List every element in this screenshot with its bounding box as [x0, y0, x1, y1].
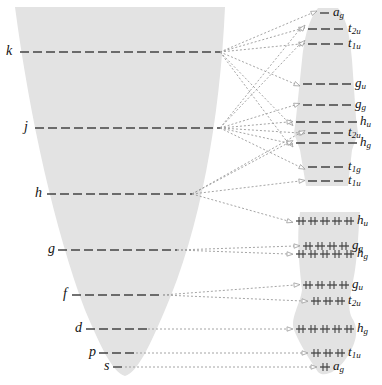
connector-k-u_t1u: [220, 44, 300, 52]
state-label-u_hu: hu: [360, 114, 371, 129]
connector-f-l_gu: [163, 285, 295, 295]
state-label-l_ag: ag: [333, 359, 344, 374]
state-label-l_hu: hu: [357, 213, 368, 228]
connector-g-l_gg: [177, 246, 295, 250]
state-subscript: 2u: [352, 26, 361, 36]
state-subscript: 2u: [352, 298, 361, 308]
state-label-l_gu: gu: [352, 277, 363, 292]
shell-label-s: s: [104, 359, 109, 373]
state-subscript: g: [340, 10, 345, 20]
arrowhead-icon: [287, 252, 293, 256]
shell-label-j: j: [24, 120, 28, 134]
arrowhead-icon: [287, 219, 293, 223]
connector-k-u_gu: [220, 52, 295, 84]
connector-j-u_hg: [220, 128, 288, 143]
connector-h-l_hu: [192, 194, 288, 221]
state-subscript: u: [367, 119, 372, 129]
connector-k-u_hg: [220, 52, 288, 143]
state-subscript: u: [364, 218, 369, 228]
state-subscript: 1u: [352, 178, 361, 188]
state-subscript: g: [367, 140, 372, 150]
state-label-u_gu: gu: [355, 76, 366, 91]
state-label-u_ag: ag: [333, 5, 344, 20]
state-label-l_hg_b: hg: [357, 321, 368, 336]
state-subscript: g: [364, 251, 369, 261]
connector-k-u_hu: [220, 52, 288, 122]
shell-label-d: d: [75, 321, 82, 335]
shell-label-f: f: [63, 287, 67, 301]
state-label-u_gg: gg: [355, 97, 366, 112]
state-subscript: u: [359, 282, 364, 292]
shell-label-h: h: [35, 186, 42, 200]
shell-label-k: k: [6, 44, 12, 58]
state-label-u_t2u_b: t2u: [348, 125, 361, 140]
diagram-canvas: [0, 0, 382, 385]
shell-label-g: g: [48, 242, 55, 256]
arrowhead-icon: [287, 327, 293, 331]
state-label-l_hg: hg: [357, 246, 368, 261]
connector-j-u_t2u: [220, 29, 300, 128]
connector-j-u_t1g: [220, 128, 300, 167]
connector-f-l_t2u: [163, 295, 303, 301]
state-subscript: 1u: [352, 41, 361, 51]
state-label-l_t2u: t2u: [348, 293, 361, 308]
state-label-u_t1u_b: t1u: [348, 173, 361, 188]
connector-j-u_hu: [220, 122, 288, 128]
shell-label-p: p: [89, 345, 96, 359]
state-label-l_t1u: t1u: [348, 345, 361, 360]
connector-g-l_hg: [177, 250, 288, 254]
state-subscript: g: [364, 326, 369, 336]
arrowhead-icon: [294, 82, 300, 86]
state-label-u_t2u: t2u: [348, 21, 361, 36]
arrowhead-icon: [299, 179, 305, 183]
state-label-u_t1u: t1u: [348, 36, 361, 51]
state-subscript: g: [362, 102, 367, 112]
left-funnel-shape: [15, 7, 225, 376]
state-subscript: g: [340, 364, 345, 374]
state-subscript: 1u: [352, 350, 361, 360]
orbital-correlation-diagram: kjhgfdpsagt2ut1ugugghut2uhgt1gt1uhugghgg…: [0, 0, 382, 385]
connector-k-u_t2u: [220, 29, 300, 52]
arrowhead-icon: [294, 283, 300, 287]
state-subscript: u: [362, 81, 367, 91]
state-label-u_hg: hg: [360, 135, 371, 150]
connector-h-u_t1u_b: [192, 181, 300, 194]
